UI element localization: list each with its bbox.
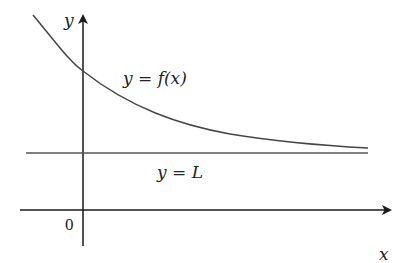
x-axis-label: x bbox=[379, 244, 389, 263]
diagram-canvas: y x 0 y = f(x) y = L bbox=[0, 0, 410, 263]
origin-label: 0 bbox=[65, 215, 74, 234]
y-axis-label: y bbox=[63, 10, 74, 30]
asymptote-label: y = L bbox=[156, 162, 203, 182]
curve-label: y = f(x) bbox=[122, 68, 187, 88]
asymptote-diagram: y x 0 y = f(x) y = L bbox=[0, 0, 410, 263]
